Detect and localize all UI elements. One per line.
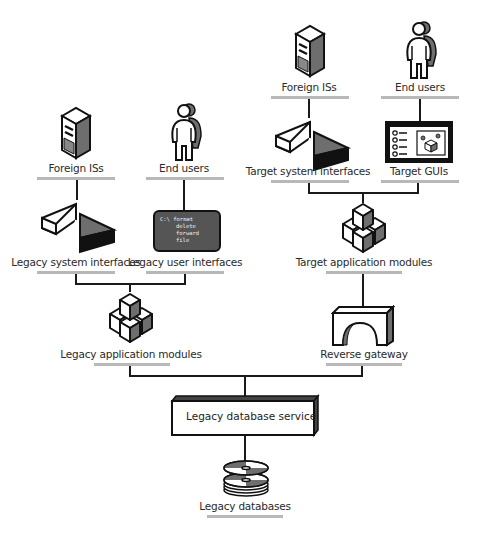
terminal-line: delete <box>160 223 199 230</box>
label-target-system-interfaces: Target system interfaces <box>246 165 371 177</box>
gateway-arch-icon <box>331 305 395 347</box>
label-legacy-databases: Legacy databases <box>199 500 291 512</box>
label-reverse-gateway: Reverse gateway <box>320 348 407 360</box>
label-target-application-modules: Target application modules <box>296 256 433 268</box>
underline <box>326 363 402 366</box>
label-legacy-database-service: Legacy database service <box>186 410 316 422</box>
underline <box>37 271 115 274</box>
stacked-cubes-icon <box>341 200 387 256</box>
label-end-users-right: End users <box>395 81 445 93</box>
label-foreign-iss-right: Foreign ISs <box>281 81 336 93</box>
label-legacy-system-interfaces: Legacy system interfaces <box>11 256 140 268</box>
label-target-guis: Target GUIs <box>390 165 448 177</box>
underline <box>381 96 459 99</box>
server-tower-icon <box>58 104 94 160</box>
interface-wedge-icon <box>272 116 352 172</box>
label-foreign-iss-left: Foreign ISs <box>48 162 103 174</box>
label-legacy-application-modules: Legacy application modules <box>60 348 201 360</box>
gui-window-icon <box>385 121 453 163</box>
underline <box>146 177 224 180</box>
underline <box>94 363 170 366</box>
underline <box>207 515 283 518</box>
underline <box>271 96 349 99</box>
terminal-screen-icon: C:\ format delete forward file <box>153 210 221 252</box>
underline <box>326 271 402 274</box>
underline <box>381 180 459 183</box>
server-tower-icon <box>292 22 328 78</box>
terminal-line: C:\ format <box>160 216 199 223</box>
user-person-icon <box>165 102 205 162</box>
stacked-cubes-icon <box>108 290 154 346</box>
terminal-line: forward <box>160 230 199 237</box>
underline <box>271 180 349 183</box>
terminal-line: file <box>160 237 199 244</box>
underline <box>37 177 115 180</box>
disk-stack-icon <box>222 458 270 498</box>
interface-wedge-icon <box>38 198 118 254</box>
architecture-diagram: Foreign ISs End users Legacy system inte… <box>0 0 480 536</box>
label-end-users-left: End users <box>159 162 209 174</box>
underline <box>146 271 224 274</box>
user-person-icon <box>400 20 440 80</box>
label-legacy-user-interfaces: Legacy user interfaces <box>128 256 243 268</box>
